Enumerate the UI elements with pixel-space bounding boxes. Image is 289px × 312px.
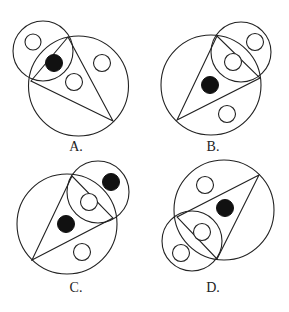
filled-dot xyxy=(202,77,219,94)
small-circle xyxy=(162,211,222,271)
hollow-dot xyxy=(74,244,91,261)
triangle xyxy=(177,36,260,120)
hollow-dot xyxy=(219,106,236,123)
hollow-dot xyxy=(94,55,111,72)
hollow-dot xyxy=(66,74,83,91)
filled-dot xyxy=(46,55,63,72)
small-circle xyxy=(211,22,271,82)
hollow-dot xyxy=(225,54,242,71)
option-c-figure xyxy=(17,161,129,274)
hollow-dot xyxy=(247,34,264,51)
hollow-dot xyxy=(173,245,190,262)
filled-dot xyxy=(103,174,120,191)
hollow-dot xyxy=(81,194,98,211)
option-b-label: B. xyxy=(207,140,220,154)
hollow-dot xyxy=(25,34,41,50)
hollow-dot xyxy=(194,224,211,241)
option-c-label: C. xyxy=(70,281,83,295)
hollow-dot xyxy=(197,177,214,194)
small-circle xyxy=(67,161,129,223)
option-a-figure xyxy=(13,21,129,136)
option-b-figure xyxy=(161,22,271,135)
filled-dot xyxy=(58,216,75,233)
option-d-label: D. xyxy=(206,281,220,295)
puzzle-figure-canvas xyxy=(0,0,289,312)
option-d-figure xyxy=(162,160,274,271)
filled-dot xyxy=(217,200,234,217)
option-a-label: A. xyxy=(69,140,83,154)
